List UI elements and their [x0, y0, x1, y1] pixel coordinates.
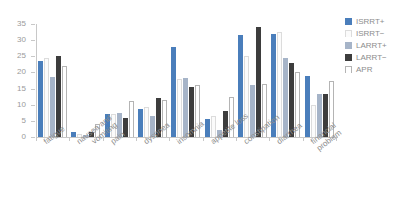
bar	[283, 58, 288, 137]
bar	[256, 27, 261, 137]
y-tick-label: 35	[0, 20, 26, 28]
legend-item[interactable]: LARRT+	[345, 40, 413, 51]
bar	[129, 101, 134, 137]
legend-label: ISRRT−	[356, 29, 385, 38]
bar	[177, 79, 182, 137]
bar	[38, 61, 43, 137]
series-3-swatch	[345, 54, 352, 61]
legend-item[interactable]: ISRRT−	[345, 28, 413, 39]
y-tick-mark	[31, 105, 35, 106]
bar	[44, 58, 49, 137]
bar	[205, 119, 210, 137]
bar	[71, 132, 76, 137]
y-tick-label: 10	[0, 101, 26, 109]
legend-label: LARRT+	[356, 41, 387, 50]
bar-chart: 05101520253035 fatiguenausea and vomitin…	[0, 0, 414, 198]
y-tick-mark	[31, 24, 35, 25]
bar	[171, 47, 176, 137]
y-tick-mark	[31, 72, 35, 73]
bar	[138, 109, 143, 137]
legend-label: APR	[356, 65, 372, 74]
x-axis-labels: fatiguenausea and vomitingpaindyspneains…	[36, 139, 338, 198]
series-4-swatch	[345, 66, 352, 73]
y-tick-mark	[31, 56, 35, 57]
bar	[244, 56, 249, 137]
y-tick-label: 30	[0, 36, 26, 44]
y-tick-label: 15	[0, 85, 26, 93]
series-1-swatch	[345, 30, 352, 37]
y-tick-label: 0	[0, 133, 26, 141]
legend-label: ISRRT+	[356, 17, 385, 26]
legend-item[interactable]: APR	[345, 64, 413, 75]
legend-label: LARRT−	[356, 53, 387, 62]
legend-item[interactable]: ISRRT+	[345, 16, 413, 27]
series-0-swatch	[345, 18, 352, 25]
legend-item[interactable]: LARRT−	[345, 52, 413, 63]
y-tick-label: 20	[0, 68, 26, 76]
bar	[305, 76, 310, 137]
chart-legend: ISRRT+ISRRT−LARRT+LARRT−APR	[345, 16, 413, 76]
y-tick-label: 25	[0, 52, 26, 60]
bar	[311, 105, 316, 137]
y-tick-mark	[31, 121, 35, 122]
plot-area	[36, 24, 336, 137]
y-tick-mark	[31, 89, 35, 90]
y-tick-mark	[31, 137, 35, 138]
series-2-swatch	[345, 42, 352, 49]
y-axis: 05101520253035	[0, 0, 36, 198]
bar-group	[36, 24, 69, 137]
y-tick-label: 5	[0, 117, 26, 125]
y-tick-mark	[31, 40, 35, 41]
